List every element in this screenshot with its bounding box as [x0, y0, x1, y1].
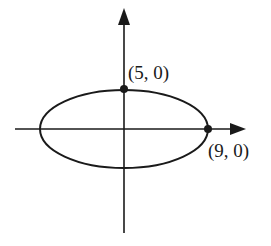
ellipse-diagram: (5, 0) (9, 0) [0, 0, 271, 246]
y-axis-arrow-icon [118, 8, 130, 25]
right-vertex-point [204, 125, 212, 133]
top-vertex-point [120, 85, 128, 93]
top-vertex-label: (5, 0) [128, 62, 169, 84]
x-axis-arrow-icon [230, 123, 246, 135]
right-vertex-label: (9, 0) [208, 140, 249, 162]
